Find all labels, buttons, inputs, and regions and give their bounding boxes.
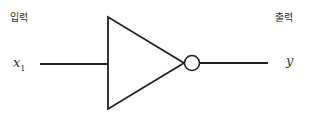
buffer-triangle — [108, 17, 184, 109]
inversion-bubble — [185, 56, 200, 71]
not-gate-diagram — [0, 0, 310, 117]
